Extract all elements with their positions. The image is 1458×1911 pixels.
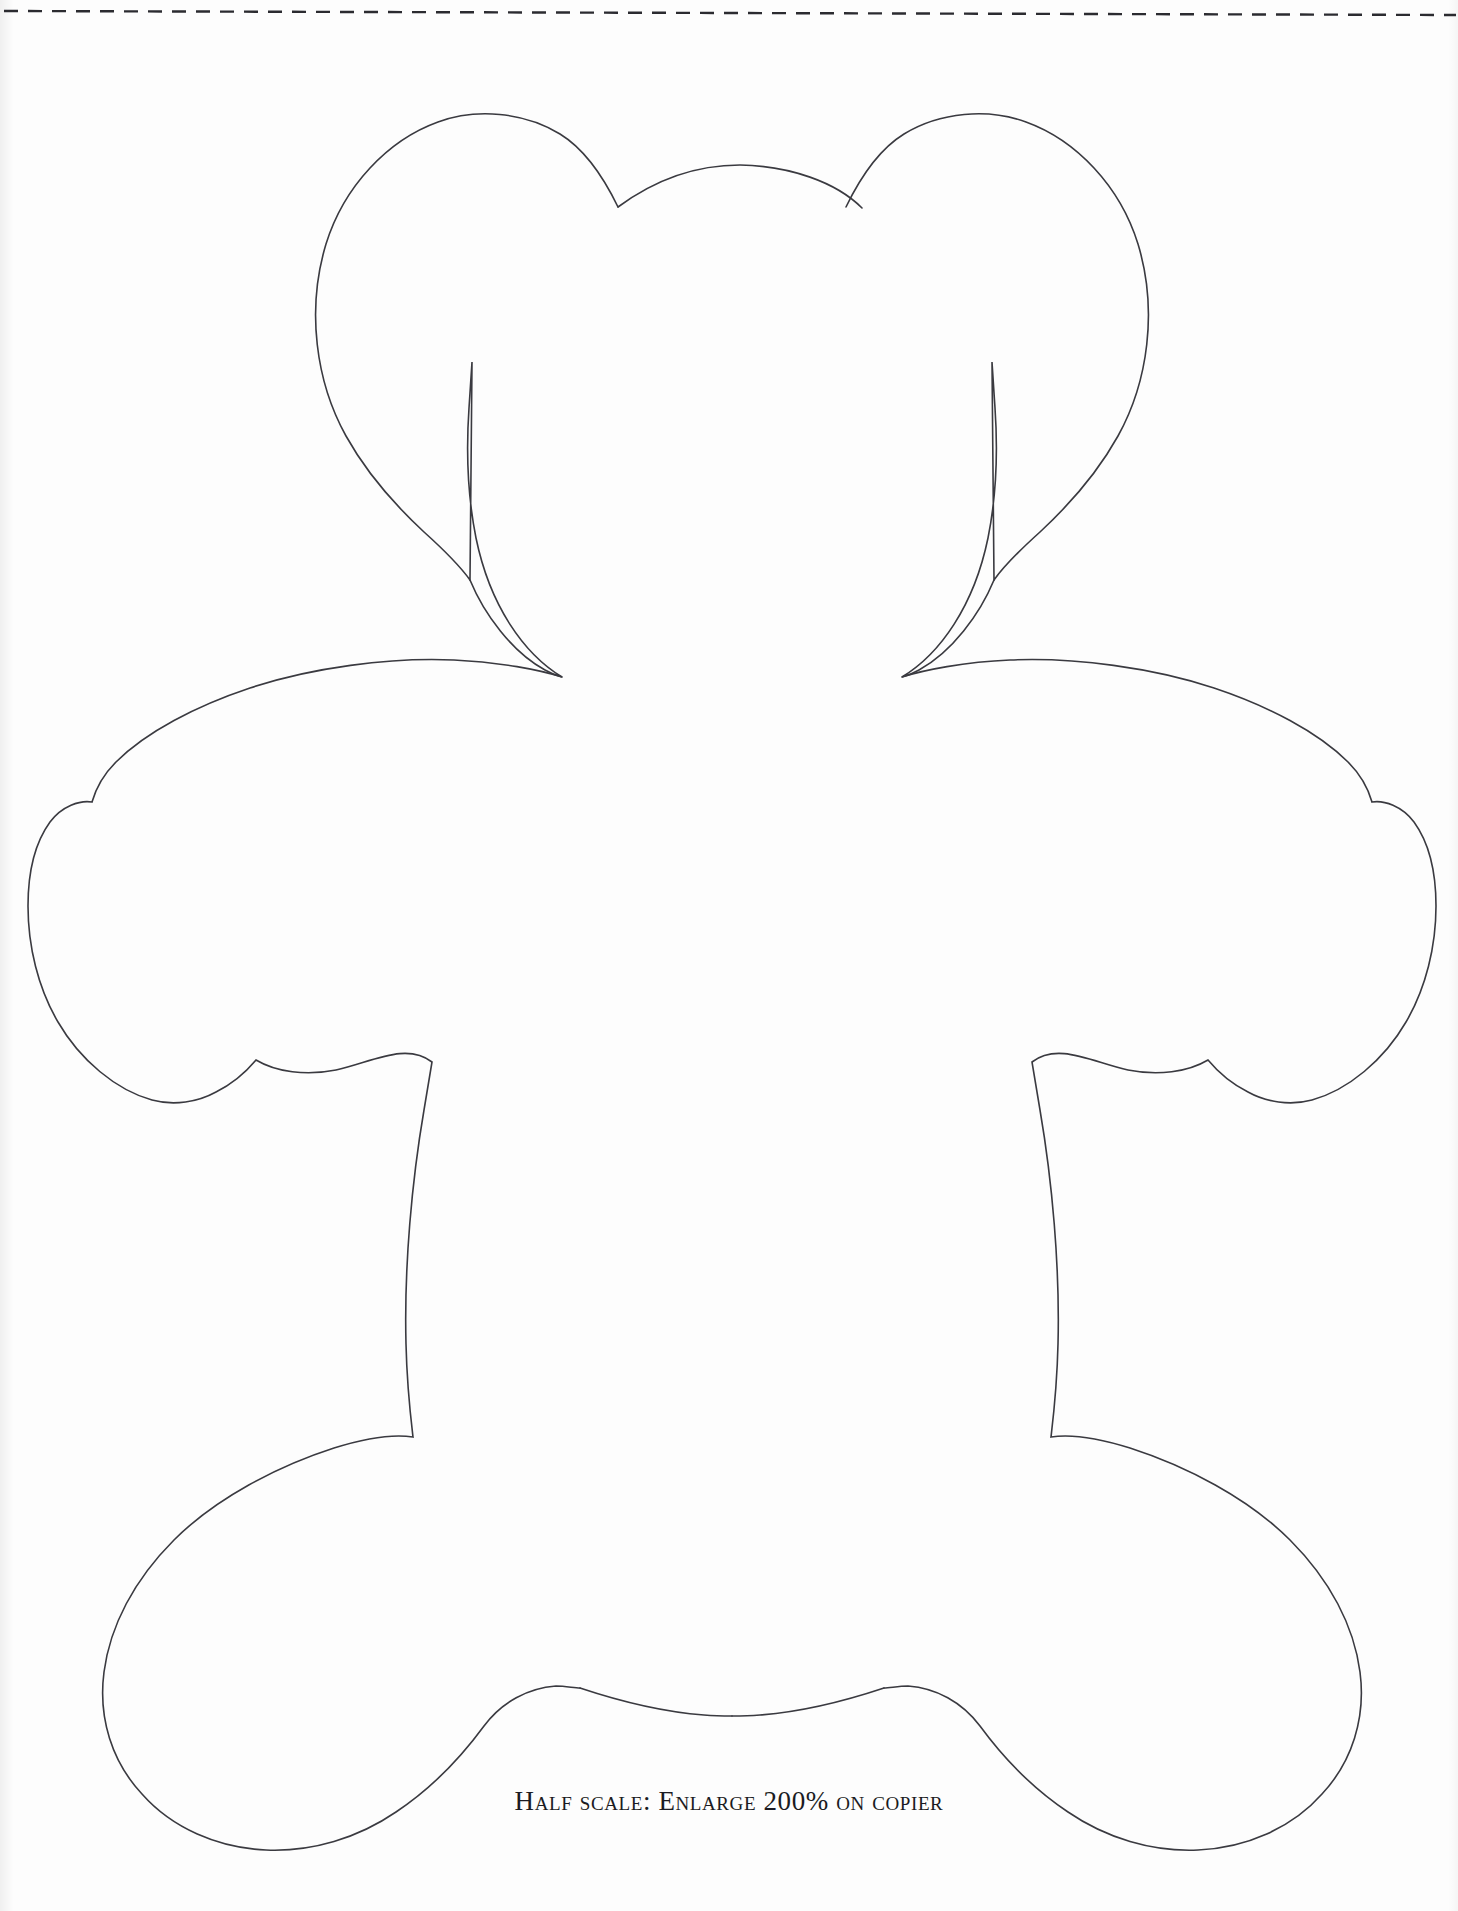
- pattern-sheet-page: Half scale: Enlarge 200% on copier: [0, 0, 1458, 1911]
- pattern-artwork: [0, 0, 1458, 1911]
- teddy-bear-outline-group: [28, 114, 1436, 1850]
- dashed-cut-line: [4, 11, 1456, 15]
- bear-left-half-outline: [28, 114, 618, 1850]
- bear-head-crown: [618, 165, 862, 208]
- scale-instruction-caption: Half scale: Enlarge 200% on copier: [0, 1786, 1458, 1817]
- bear-lower-torso-right: [732, 1688, 884, 1716]
- bear-lower-torso-left: [580, 1688, 732, 1716]
- bear-right-half-outline: [846, 114, 1436, 1850]
